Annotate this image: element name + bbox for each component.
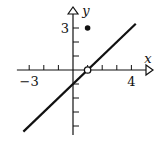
closed-point (85, 25, 91, 31)
x-tick-label: −3 (20, 74, 39, 89)
y-axis-label: y (81, 3, 90, 18)
y-tick-label: 3 (61, 21, 69, 36)
x-axis-arrow (146, 65, 153, 75)
x-axis-label: x (144, 51, 152, 66)
y-axis-arrow (68, 7, 78, 14)
x-tick-label: 4 (127, 74, 135, 89)
open-point (84, 67, 90, 73)
graph: −343xy (0, 0, 156, 143)
series-line (23, 24, 135, 132)
